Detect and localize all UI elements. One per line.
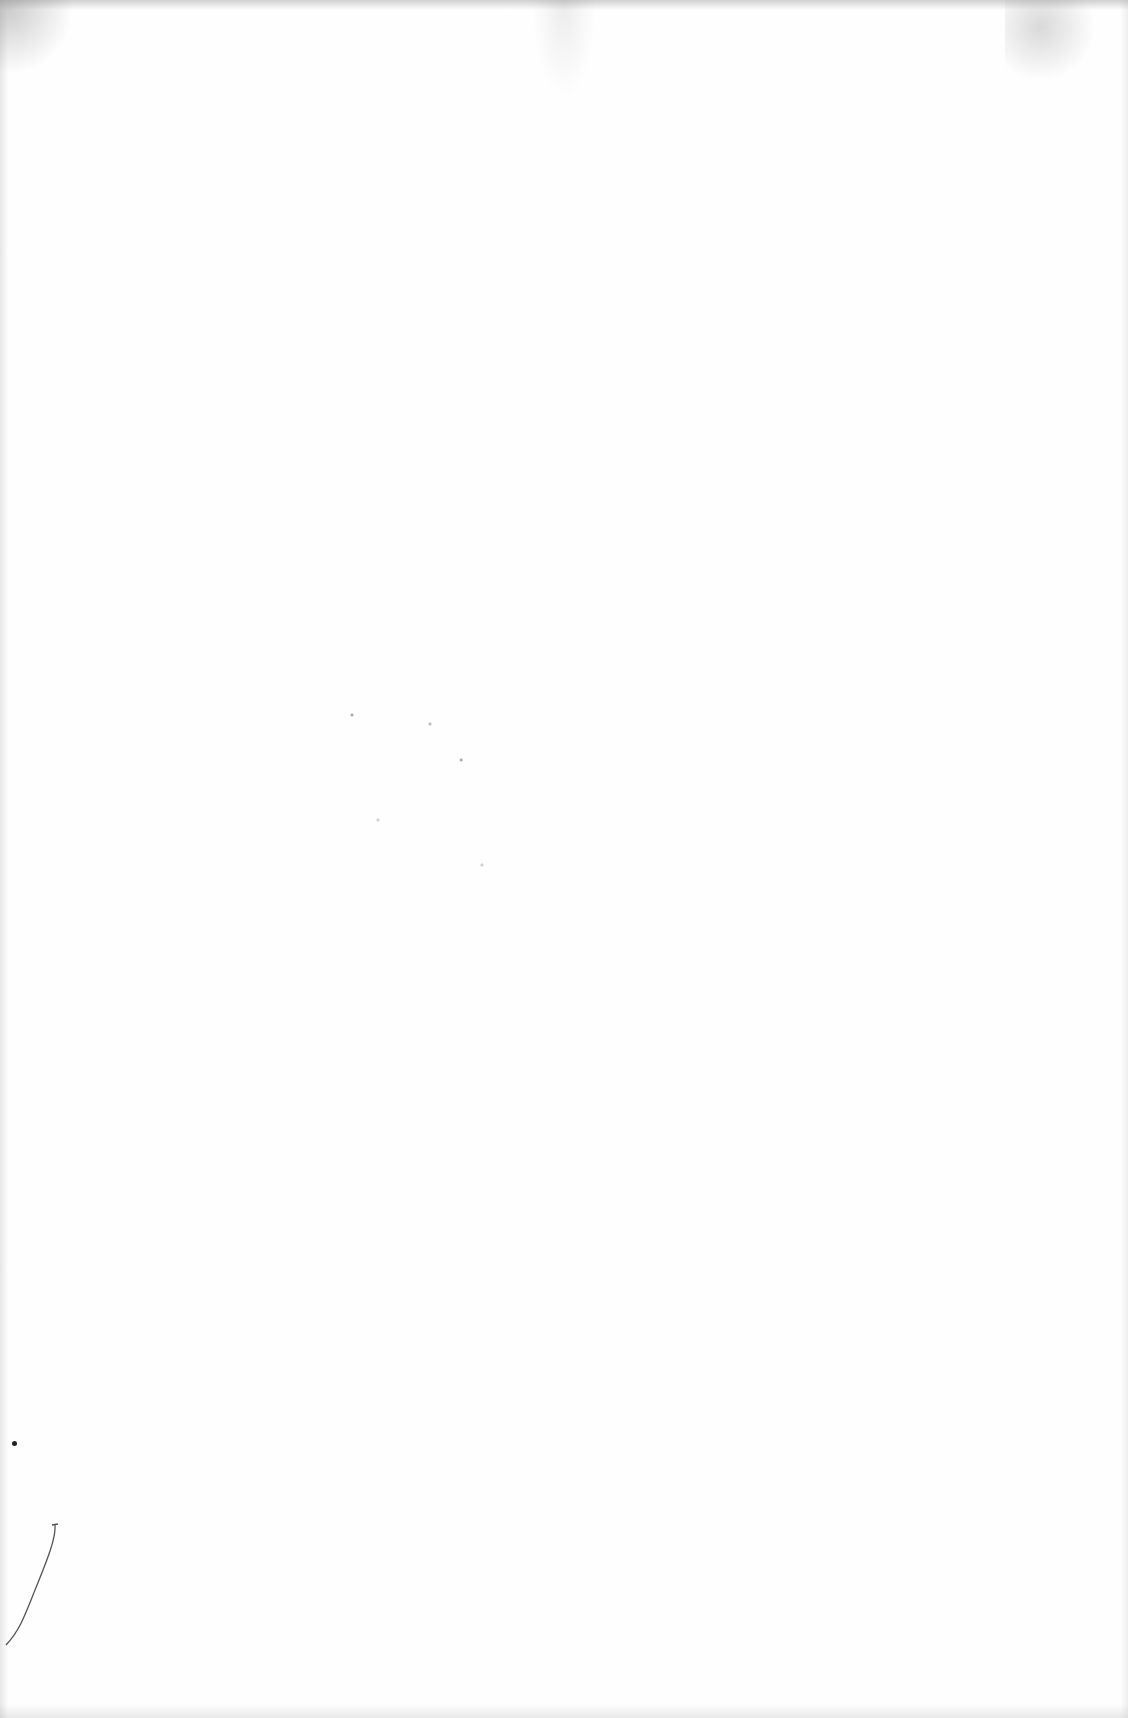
hair-fiber-mark bbox=[0, 1520, 70, 1650]
scan-noise-top-left bbox=[0, 0, 80, 90]
scan-edge-right bbox=[1120, 0, 1128, 1718]
scan-edge-top bbox=[0, 0, 1128, 10]
scan-speck-cluster bbox=[300, 640, 560, 940]
scan-noise-top-right bbox=[1005, 0, 1095, 90]
scan-dot bbox=[12, 1441, 17, 1446]
blank-page bbox=[0, 0, 1128, 1718]
scan-edge-bottom bbox=[0, 1704, 1128, 1718]
scan-edge-left bbox=[0, 0, 8, 1718]
